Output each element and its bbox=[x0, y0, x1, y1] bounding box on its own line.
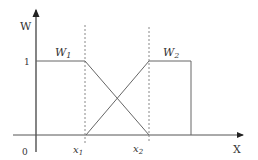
x-axis-label: X bbox=[233, 143, 241, 156]
level-one-label: 1 bbox=[24, 57, 30, 67]
membership-diagram: W X 0 1 W1 W2 x1 x2 bbox=[0, 0, 258, 160]
origin-label: 0 bbox=[22, 147, 28, 157]
w2-curve bbox=[86, 61, 191, 135]
w1-label: W1 bbox=[55, 46, 71, 60]
x2-label: x2 bbox=[133, 143, 144, 156]
w1-curve bbox=[36, 61, 149, 135]
w2-label: W2 bbox=[163, 46, 179, 60]
y-axis-label: W bbox=[20, 20, 32, 33]
x1-label: x1 bbox=[73, 144, 83, 157]
